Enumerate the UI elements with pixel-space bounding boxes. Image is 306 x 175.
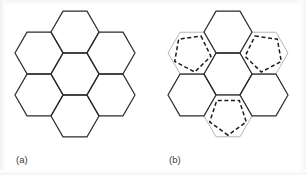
panel-b-label: (b) (169, 154, 181, 165)
panel-a-label: (a) (16, 154, 28, 165)
honeycomb-figure-svg: (a) (b) (0, 0, 306, 175)
figure-background (0, 0, 306, 175)
figure-root: (a) (b) (0, 0, 306, 175)
